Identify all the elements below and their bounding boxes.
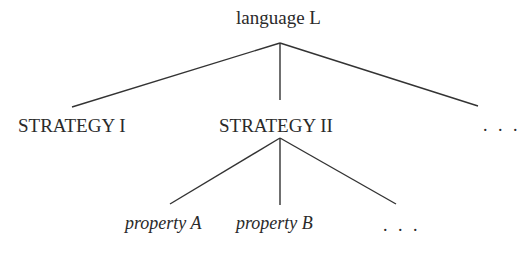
edge-strategy-2-more xyxy=(280,138,396,204)
edge-root-strategy-1 xyxy=(72,43,280,107)
node-more-strategies: . . . xyxy=(483,116,521,134)
node-property-b: property B xyxy=(236,214,313,232)
edge-root-more xyxy=(280,43,478,106)
node-strategy-1: STRATEGY I xyxy=(18,116,126,135)
edge-strategy-2-property-a xyxy=(170,138,280,204)
root-node-language: language L xyxy=(236,8,321,27)
node-more-properties: . . . xyxy=(383,216,421,234)
node-property-a: property A xyxy=(125,214,202,232)
node-strategy-2: STRATEGY II xyxy=(219,116,333,135)
